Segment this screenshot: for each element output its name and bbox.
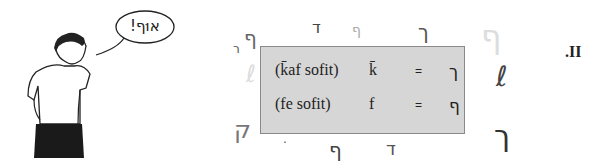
hebrew-letter: ף xyxy=(449,95,460,115)
letter-table: (k̄af sofit) k̄ = ך (fe sofit) f = ף xyxy=(260,46,465,134)
hebrew-letter: ך xyxy=(449,61,458,81)
hebrew-letter-glyph: ף xyxy=(352,22,361,38)
transliteration: k̄ xyxy=(369,61,377,79)
hebrew-letter-glyph: ר xyxy=(233,42,240,56)
letter-name: (fe sofit) xyxy=(275,95,331,113)
speech-bubble-text: !אוּף xyxy=(130,17,160,35)
hebrew-letter-glyph: ד xyxy=(386,138,396,159)
hebrew-letter-glyph: ℓ xyxy=(246,60,256,88)
equals-sign: = xyxy=(415,64,422,78)
hebrew-letter-glyph: ף xyxy=(481,18,501,56)
letter-name: (k̄af sofit) xyxy=(275,61,339,79)
hebrew-letter-glyph: ק xyxy=(234,116,251,144)
hebrew-letter-glyph: ף xyxy=(329,138,342,162)
section-label: .II xyxy=(565,43,581,61)
transliteration: f xyxy=(369,95,374,113)
equals-sign: = xyxy=(415,98,422,112)
hebrew-letter-glyph: ך xyxy=(418,20,429,44)
hebrew-letter-glyph: ד xyxy=(312,18,321,37)
hebrew-letter-glyph: ך xyxy=(494,118,510,153)
cartoon-illustration: !אוּף xyxy=(0,0,200,168)
hebrew-letter-glyph: ℓ xyxy=(496,60,508,93)
hebrew-letter-glyph: · xyxy=(283,136,287,150)
hebrew-letter-glyph: ף xyxy=(244,26,257,50)
